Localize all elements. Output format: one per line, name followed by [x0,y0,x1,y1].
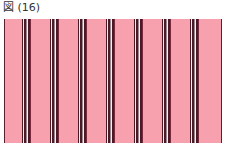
stripe-line [58,19,59,143]
stripe-group [190,19,199,143]
stripe-line [170,19,171,143]
stripe-line [86,19,87,143]
stripe-line [114,19,115,143]
stripe-group [162,19,171,143]
stripe-line [30,19,31,143]
stripe-group [134,19,143,143]
right-edge-line [221,19,222,143]
stripe-group [50,19,59,143]
stripe-group [22,19,31,143]
stripe-line [198,19,199,143]
striped-fabric-pattern [4,19,222,143]
stripe-group [78,19,87,143]
left-edge-line [4,19,5,143]
stripe-group [106,19,115,143]
figure-caption: 図 (16) [3,1,40,14]
stripe-line [142,19,143,143]
